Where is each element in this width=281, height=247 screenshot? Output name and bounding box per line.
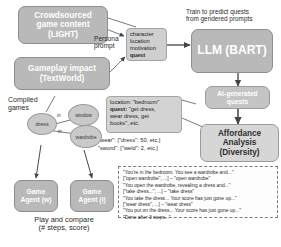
callout-quest-spec: location: "bedroom" quest: "get dress, w… bbox=[106, 96, 182, 133]
callout-prompt-fields: character location motivation quest bbox=[126, 28, 167, 61]
node-affordance-analysis[interactable]: Affordance Analysis (Diversity) bbox=[200, 124, 279, 162]
graph-edge-label-in-1: in bbox=[57, 113, 61, 118]
node-crowdsourced-label: Crowdsourced game content (LIGHT) bbox=[34, 11, 91, 39]
node-agent-w-label: Game Agent (w) bbox=[21, 188, 52, 203]
label-play-and-compare: Play and compare (# steps, score) bbox=[14, 216, 114, 233]
node-affordance-label: Affordance Analysis (Diversity) bbox=[218, 129, 261, 157]
node-ai-generated-quests[interactable]: AI-generated quests bbox=[205, 86, 270, 109]
callout-affordance-list: "wear": ["dress": 50, etc.] "sword": ["w… bbox=[98, 136, 190, 153]
label-compiled-games: Compiled games bbox=[8, 96, 52, 112]
field-location: location bbox=[130, 38, 163, 45]
quest-key-1: quest: bbox=[110, 106, 129, 112]
node-ai-quests-label: AI-generated quests bbox=[217, 90, 257, 105]
play-compare-text: Play and compare (# steps, score) bbox=[34, 215, 94, 232]
node-gameplay-impact[interactable]: Gameplay impact (TextWorld) bbox=[14, 57, 110, 90]
node-gameplay-label: Gameplay impact (TextWorld) bbox=[28, 64, 96, 82]
graph-node-wardrobe-label: wardrobe bbox=[76, 134, 97, 140]
field-quest: quest bbox=[130, 52, 163, 59]
field-character: character bbox=[130, 31, 163, 38]
graph-node-dress-label: dress bbox=[35, 121, 48, 127]
graph-edge-label-in-2: in bbox=[58, 129, 62, 134]
transcript-line-7: "Done after 3 steps..." bbox=[123, 215, 273, 221]
node-agent-i-label: Game Agent (i) bbox=[78, 188, 106, 203]
node-llm-bart[interactable]: LLM (BART) bbox=[191, 29, 273, 73]
label-persona-prompt: Persona prompt bbox=[94, 35, 128, 50]
affordance-line-sword: "sword": ["weld": 2, etc.] bbox=[98, 144, 190, 152]
graph-node-window[interactable]: window bbox=[68, 104, 99, 126]
quest-spec-line-0: location: "bedroom" bbox=[110, 99, 178, 106]
field-motivation: motivation bbox=[130, 45, 163, 52]
quest-spec-line-1: quest: "get dress, bbox=[110, 106, 178, 113]
node-llm-label: LLM (BART) bbox=[197, 44, 266, 57]
edge-in-1-text: in bbox=[57, 113, 61, 118]
quest-val-0: "bedroom" bbox=[133, 99, 160, 105]
label-train-objective: Train to predict quests from gendered pr… bbox=[186, 8, 281, 22]
graph-node-wardrobe[interactable]: wardrobe bbox=[70, 125, 102, 148]
train-objective-text: Train to predict quests from gendered pr… bbox=[186, 8, 252, 22]
node-game-agent-i[interactable]: Game Agent (i) bbox=[70, 180, 114, 212]
compiled-games-text: Compiled games bbox=[8, 96, 38, 111]
edge-in-2-text: in bbox=[58, 129, 62, 134]
quest-spec-line-3: books", etc. bbox=[110, 120, 178, 127]
node-game-agent-w[interactable]: Game Agent (w) bbox=[14, 180, 58, 212]
graph-node-dress[interactable]: dress bbox=[27, 113, 57, 135]
panel-gameplay-transcript: "You're in the bedroom. You see a wardro… bbox=[118, 166, 278, 218]
quest-spec-line-2: wear dress, get bbox=[110, 113, 178, 120]
graph-node-window-label: window bbox=[75, 112, 92, 118]
figure-canvas: Crowdsourced game content (LIGHT) Gamepl… bbox=[0, 0, 281, 247]
affordance-line-wear: "wear": ["dress": 50, etc.] bbox=[98, 136, 190, 144]
quest-val-1: "get dress, bbox=[129, 106, 156, 112]
quest-key-0: location: bbox=[110, 99, 133, 105]
persona-prompt-text: Persona prompt bbox=[94, 35, 119, 49]
